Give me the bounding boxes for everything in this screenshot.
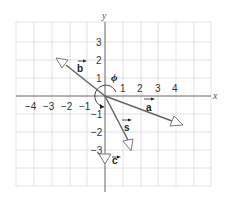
y-tick: 2 bbox=[96, 55, 102, 66]
x-tick: 4 bbox=[172, 83, 178, 94]
vector-b-label: b bbox=[77, 63, 83, 74]
vector-arrow-icon bbox=[151, 98, 155, 101]
x-tick: 1 bbox=[120, 83, 126, 94]
vector-a-label: a bbox=[146, 102, 152, 113]
vector-diagram: x y −4 −3 −2 −1 1 2 3 4 3 2 1 −1 −2 −3 ϕ… bbox=[0, 0, 228, 198]
y-tick: 1 bbox=[96, 73, 102, 84]
x-tick: 3 bbox=[155, 83, 161, 94]
vector-a bbox=[105, 96, 183, 126]
angle-phi-label: ϕ bbox=[111, 71, 118, 83]
vector-arrow-icon bbox=[117, 156, 121, 159]
x-tick: 2 bbox=[137, 83, 143, 94]
x-tick: −4 bbox=[25, 101, 37, 112]
y-tick: −1 bbox=[91, 109, 103, 120]
arrowhead-icon bbox=[99, 154, 111, 164]
y-axis-label: y bbox=[101, 10, 107, 21]
y-tick: 3 bbox=[96, 37, 102, 48]
vector-c bbox=[99, 154, 111, 164]
vector-arrow-icon bbox=[128, 119, 132, 122]
arrowhead-icon bbox=[56, 58, 68, 68]
x-tick: −1 bbox=[79, 101, 91, 112]
x-tick: −3 bbox=[43, 101, 55, 112]
vector-s-label: s bbox=[124, 122, 130, 133]
y-tick: −2 bbox=[91, 127, 103, 138]
arrowhead-icon bbox=[170, 116, 183, 126]
x-axis-label: x bbox=[212, 90, 218, 101]
arrowhead-icon bbox=[123, 139, 133, 151]
x-tick: −2 bbox=[61, 101, 73, 112]
